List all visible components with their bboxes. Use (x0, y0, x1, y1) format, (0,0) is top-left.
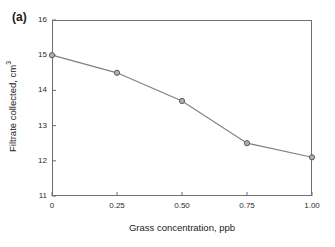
x-tick-label: 0.50 (162, 201, 202, 210)
x-tick-label: 1.00 (292, 201, 332, 210)
data-point-marker (114, 70, 119, 75)
x-tick-label: 0.75 (227, 201, 267, 210)
y-tick-marks (52, 20, 56, 196)
y-tick-label: 13 (21, 121, 47, 130)
data-point-marker (244, 141, 249, 146)
y-tick-label: 12 (21, 156, 47, 165)
y-axis-title: Filtrate collected, cm3 (7, 19, 18, 195)
data-markers (49, 53, 314, 160)
x-tick-label: 0 (32, 201, 72, 210)
y-axis-title-superscript: 3 (5, 61, 12, 65)
data-point-marker (49, 53, 54, 58)
y-axis-title-text: Filtrate collected, cm (7, 65, 18, 152)
data-point-marker (309, 155, 314, 160)
x-tick-marks (52, 192, 312, 196)
figure-panel-a: (a) 111213141516 00.250.500.751.00 Filtr… (0, 0, 335, 247)
data-line (52, 55, 312, 157)
y-tick-label: 16 (21, 15, 47, 24)
plot-area (52, 20, 312, 196)
y-tick-label: 11 (21, 191, 47, 200)
data-point-marker (179, 98, 184, 103)
y-tick-label: 14 (21, 85, 47, 94)
x-tick-label: 0.25 (97, 201, 137, 210)
x-axis-title: Grass concentration, ppb (52, 222, 312, 233)
y-tick-label: 15 (21, 50, 47, 59)
